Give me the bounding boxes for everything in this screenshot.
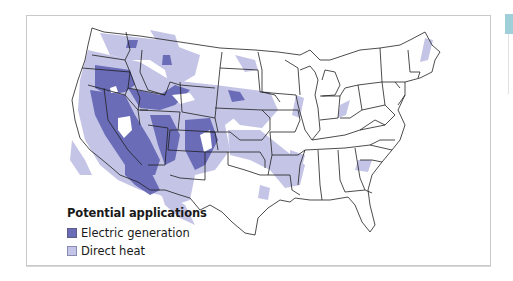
direct-heat-swatch bbox=[67, 246, 77, 256]
legend-item-label: Electric generation bbox=[81, 226, 190, 240]
electric-generation-swatch bbox=[67, 228, 77, 238]
legend-item-direct-heat: Direct heat bbox=[67, 242, 207, 260]
legend-title: Potential applications bbox=[67, 206, 207, 220]
side-divider bbox=[508, 34, 509, 94]
map-legend: Potential applications Electric generati… bbox=[67, 206, 207, 260]
legend-item-electric-generation: Electric generation bbox=[67, 224, 207, 242]
legend-item-label: Direct heat bbox=[81, 244, 145, 258]
side-tab[interactable] bbox=[505, 14, 513, 34]
